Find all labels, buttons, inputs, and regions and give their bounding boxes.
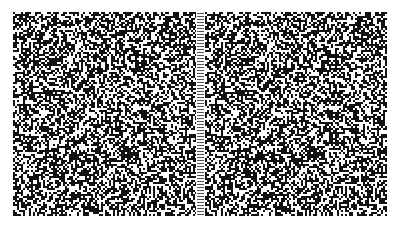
left-random-dot-image <box>13 12 196 216</box>
left-stereogram-panel <box>13 12 196 216</box>
center-divider <box>196 12 205 216</box>
right-random-dot-image <box>205 12 387 216</box>
divider-tick-marks <box>196 12 205 216</box>
right-stereogram-panel <box>205 12 387 216</box>
